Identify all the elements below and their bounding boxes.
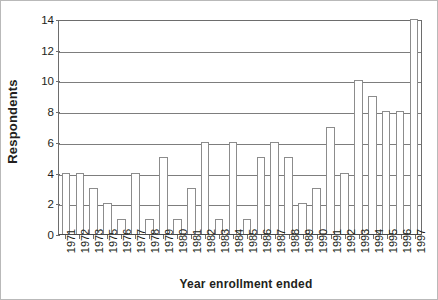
x-axis-tick: 1978	[142, 235, 156, 277]
y-axis-title-text: Respondents	[5, 79, 20, 164]
bar	[410, 19, 419, 234]
bar	[354, 80, 363, 234]
bar-cell	[73, 21, 87, 234]
bar-cell	[296, 21, 310, 234]
bar	[76, 173, 85, 234]
x-axis-tick: 1993	[352, 235, 366, 277]
x-axis-tick: 1996	[394, 235, 408, 277]
bar-cell	[240, 21, 254, 234]
y-axis-tick-label: 8	[28, 106, 54, 118]
x-axis-tick: 1985	[240, 235, 254, 277]
bar-cell	[129, 21, 143, 234]
x-axis-tick: 1971	[58, 235, 72, 277]
bar	[396, 111, 405, 234]
bar	[62, 173, 71, 234]
x-axis-tick: 1991	[324, 235, 338, 277]
x-axis-tick: 1982	[198, 235, 212, 277]
bar-cell	[310, 21, 324, 234]
x-axis-tick: 1994	[366, 235, 380, 277]
bar-chart-figure: Respondents 02468101214 1971197219731975…	[0, 0, 438, 300]
bar-cell	[407, 21, 421, 234]
x-axis-tick: 1990	[310, 235, 324, 277]
bar-cell	[143, 21, 157, 234]
bar-cell	[59, 21, 73, 234]
bar	[131, 173, 140, 234]
x-axis-tick: 1984	[226, 235, 240, 277]
x-axis-tick: 1989	[296, 235, 310, 277]
x-axis-tick: 1986	[254, 235, 268, 277]
bar-cell	[324, 21, 338, 234]
x-axis-tick: 1979	[156, 235, 170, 277]
bar-cell	[115, 21, 129, 234]
x-axis-tick: 1997	[408, 235, 422, 277]
bar-cell	[198, 21, 212, 234]
bar-cell	[184, 21, 198, 234]
bar	[229, 142, 238, 234]
x-axis-tick: 1987	[268, 235, 282, 277]
x-axis-tick: 1980	[170, 235, 184, 277]
bar-cell	[379, 21, 393, 234]
bar	[187, 188, 196, 234]
y-axis-tick-labels: 02468101214	[26, 20, 54, 235]
bar-series	[59, 21, 421, 234]
y-axis-tick-label: 0	[28, 229, 54, 241]
bar-cell	[365, 21, 379, 234]
x-axis-tick: 1995	[380, 235, 394, 277]
bar	[382, 111, 391, 234]
bar	[270, 142, 279, 234]
x-axis-tick-label: 1997	[415, 229, 427, 253]
bar-cell	[156, 21, 170, 234]
bar-cell	[170, 21, 184, 234]
bar-cell	[337, 21, 351, 234]
y-axis-tick-label: 14	[28, 14, 54, 26]
bar	[159, 157, 168, 234]
x-axis-tick: 1975	[100, 235, 114, 277]
bar	[89, 188, 98, 234]
bar-cell	[393, 21, 407, 234]
bar-cell	[87, 21, 101, 234]
bar-cell	[254, 21, 268, 234]
bar	[257, 157, 266, 234]
bar	[326, 127, 335, 235]
x-axis-tick: 1988	[282, 235, 296, 277]
x-axis-tick: 1972	[72, 235, 86, 277]
x-axis-tick: 1973	[86, 235, 100, 277]
x-axis-tick: 1992	[338, 235, 352, 277]
x-axis-title: Year enrollment ended	[61, 277, 431, 291]
x-axis-tick: 1976	[114, 235, 128, 277]
bar	[201, 142, 210, 234]
bar-cell	[268, 21, 282, 234]
bar-cell	[212, 21, 226, 234]
bar-cell	[282, 21, 296, 234]
y-axis-tick-label: 2	[28, 198, 54, 210]
y-axis-title: Respondents	[1, 1, 23, 241]
x-axis-tick: 1981	[184, 235, 198, 277]
y-axis-tick-label: 10	[28, 75, 54, 87]
y-axis-tick-label: 6	[28, 137, 54, 149]
x-axis-tick-labels: 1971197219731975197619771978197919801981…	[58, 235, 422, 277]
bar	[340, 173, 349, 234]
bar-cell	[226, 21, 240, 234]
bar	[284, 157, 293, 234]
x-axis-tick: 1983	[212, 235, 226, 277]
plot-area	[58, 20, 422, 235]
bar	[312, 188, 321, 234]
bar	[368, 96, 377, 234]
bar-cell	[351, 21, 365, 234]
bar-cell	[101, 21, 115, 234]
x-axis-tick: 1977	[128, 235, 142, 277]
y-axis-tick-label: 12	[28, 45, 54, 57]
y-axis-tick-label: 4	[28, 168, 54, 180]
